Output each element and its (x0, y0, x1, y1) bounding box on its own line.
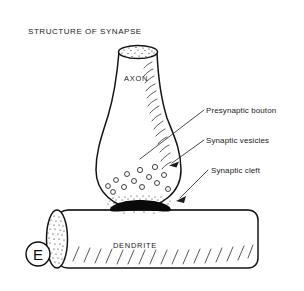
callout-label-synaptic-vesicles: Synaptic vesicles (206, 136, 269, 145)
axon-bouton-group: AXON (96, 46, 181, 214)
axon-cut-face (119, 46, 158, 59)
synapse-diagram-canvas: STRUCTURE OF SYNAPSE (0, 0, 304, 291)
synaptic-cleft-leader (180, 170, 208, 198)
dendrite-cut-face (47, 210, 68, 268)
dendrite-group: DENDRITE (47, 210, 259, 268)
panel-letter-badge: E (26, 242, 50, 266)
synapse-diagram-figure: STRUCTURE OF SYNAPSE (0, 0, 304, 291)
callout-label-presynaptic-bouton: Presynaptic bouton (206, 106, 276, 115)
figure-title: STRUCTURE OF SYNAPSE (28, 27, 142, 36)
panel-letter-text: E (33, 246, 43, 263)
dendrite-label: DENDRITE (113, 241, 157, 250)
callout-label-synaptic-cleft: Synaptic cleft (211, 166, 261, 175)
